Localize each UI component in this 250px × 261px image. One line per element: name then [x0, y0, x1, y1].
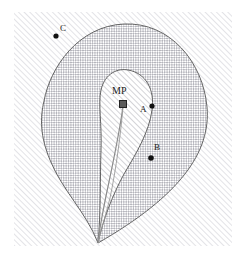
figure-canvas: MP A B C	[0, 0, 250, 261]
label-mp: MP	[112, 86, 126, 96]
marker-a[interactable]	[149, 103, 154, 108]
marker-b[interactable]	[148, 155, 154, 161]
marker-c[interactable]	[53, 33, 58, 38]
marker-mp[interactable]	[120, 101, 127, 108]
label-b: B	[154, 143, 160, 152]
figure-svg	[0, 0, 250, 261]
label-c: C	[60, 24, 66, 33]
label-a: A	[140, 105, 147, 114]
